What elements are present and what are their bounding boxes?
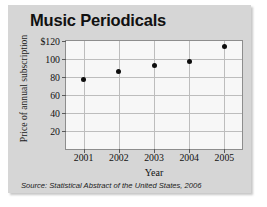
gridline-vertical — [224, 41, 225, 149]
y-axis-tick — [62, 59, 66, 60]
y-axis-label: Price of annual subscription — [18, 29, 29, 149]
data-point — [187, 59, 192, 64]
gridline-vertical — [84, 41, 85, 149]
y-axis-tick-label: 100 — [45, 54, 60, 65]
x-axis-tick-label: 2004 — [179, 152, 199, 163]
y-axis-tick — [62, 113, 66, 114]
x-axis-label: Year — [65, 167, 243, 178]
y-axis-tick — [62, 95, 66, 96]
gridline-vertical — [189, 41, 190, 149]
chart-title: Music Periodicals — [30, 11, 166, 30]
gridline-vertical — [154, 41, 155, 149]
x-axis-tick-label: 2005 — [215, 152, 235, 163]
data-point — [81, 77, 86, 82]
y-axis-tick-label: 40 — [50, 108, 60, 119]
source-note: Source: Statistical Abstract of the Unit… — [21, 181, 201, 190]
data-point — [152, 63, 157, 68]
y-axis-tick-label: $120 — [40, 36, 60, 47]
x-axis-tick-label: 2002 — [109, 152, 129, 163]
y-axis-tick-label: 60 — [50, 90, 60, 101]
data-point — [222, 44, 227, 49]
y-axis-tick-label: 80 — [50, 72, 60, 83]
data-point — [116, 69, 121, 74]
y-axis-tick — [62, 77, 66, 78]
y-axis-tick — [62, 41, 66, 42]
y-axis-tick — [62, 131, 66, 132]
gridline-vertical — [119, 41, 120, 149]
plot-area: 20406080100$12020012002200320042005 — [65, 40, 243, 150]
chart-figure: Music Periodicals Price of annual subscr… — [8, 5, 251, 193]
x-axis-tick-label: 2003 — [144, 152, 164, 163]
x-axis-tick-label: 2001 — [74, 152, 94, 163]
y-axis-tick-label: 20 — [50, 126, 60, 137]
